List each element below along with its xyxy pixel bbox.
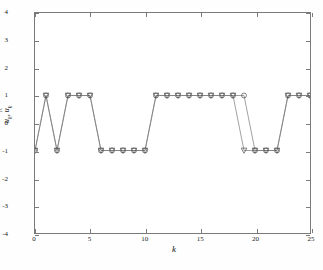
- y-axis-tick-right: [306, 41, 310, 42]
- y-axis-tick-right: [306, 96, 310, 97]
- y-tick-label: 1: [0, 91, 8, 99]
- figure-canvas: 0510152025-4-3-2-101234 k uk, uk: [0, 0, 323, 270]
- y-tick-label: 3: [0, 36, 8, 44]
- y-title-separator: ,: [2, 112, 11, 116]
- x-axis-tick: [90, 229, 91, 233]
- series-line: [35, 96, 310, 151]
- x-tick-label: 25: [308, 235, 315, 243]
- x-tick-label: 15: [197, 235, 204, 243]
- x-tick-label: 20: [252, 235, 259, 243]
- series-line: [35, 96, 310, 151]
- x-axis-title: k: [172, 244, 176, 254]
- y-axis-tick: [35, 69, 39, 70]
- y-axis-tick: [35, 152, 39, 153]
- y-axis-tick-right: [306, 69, 310, 70]
- y-tick-label: 2: [0, 64, 8, 72]
- y-title-u1: u: [2, 119, 11, 123]
- y-axis-tick-right: [306, 180, 310, 181]
- series-plot: [35, 13, 310, 233]
- y-title-u2-hat: u: [2, 108, 11, 112]
- x-axis-tick: [257, 229, 258, 233]
- y-tick-label: -4: [0, 230, 8, 238]
- x-axis-tick-top: [90, 13, 91, 17]
- y-axis-tick: [35, 207, 39, 208]
- x-axis-tick: [312, 229, 313, 233]
- x-tick-label: 10: [141, 235, 148, 243]
- y-axis-tick: [35, 180, 39, 181]
- y-axis-tick: [35, 96, 39, 97]
- x-axis-tick: [35, 229, 36, 233]
- y-axis-tick: [35, 41, 39, 42]
- x-axis-tick-top: [257, 13, 258, 17]
- y-axis-title: uk, uk: [2, 106, 13, 123]
- y-tick-label: -1: [0, 147, 8, 155]
- x-tick-label: 5: [88, 235, 92, 243]
- y-tick-label: 4: [0, 8, 8, 16]
- y-axis-tick-right: [306, 207, 310, 208]
- x-axis-tick: [201, 229, 202, 233]
- y-title-sub1: k: [7, 116, 13, 119]
- y-axis-tick-right: [306, 13, 310, 14]
- y-axis-tick-right: [306, 124, 310, 125]
- y-axis-tick: [35, 124, 39, 125]
- x-axis-tick-top: [201, 13, 202, 17]
- y-tick-label: -2: [0, 175, 8, 183]
- x-axis-tick-top: [146, 13, 147, 17]
- y-axis-tick-right: [306, 152, 310, 153]
- y-tick-label: -3: [0, 202, 8, 210]
- x-tick-label: 0: [32, 235, 36, 243]
- plot-area: [34, 12, 311, 234]
- x-axis-tick-top: [312, 13, 313, 17]
- x-axis-tick: [146, 229, 147, 233]
- y-axis-tick: [35, 13, 39, 14]
